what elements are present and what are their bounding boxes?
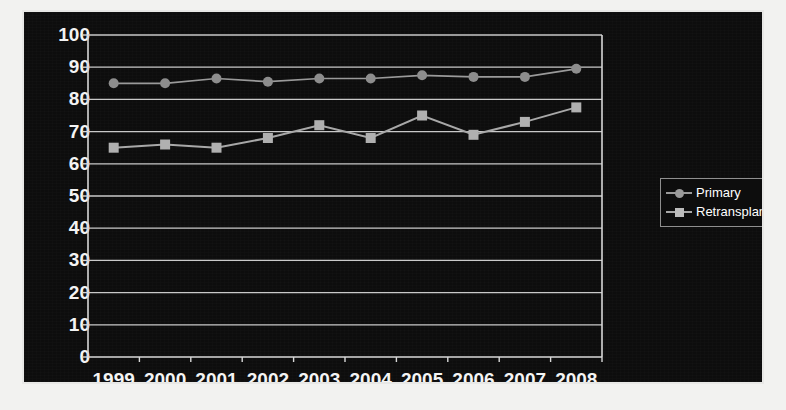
x-axis-tick-label: 2006	[452, 370, 494, 384]
x-axis-tick-label: 2002	[247, 370, 289, 384]
screenshot-root: 1009080706050403020100 19992000200120022…	[0, 0, 786, 410]
x-axis-tick-label: 2005	[401, 370, 443, 384]
x-axis-tick-labels: 1999200020012002200320042005200620072008	[24, 12, 762, 382]
chart-image: 1009080706050403020100 19992000200120022…	[22, 10, 764, 384]
legend-item-primary: Primary	[666, 183, 758, 202]
x-axis-tick-label: 2004	[350, 370, 392, 384]
legend-marker-circle-icon	[666, 187, 692, 199]
legend-label-retransplant: Retransplant	[696, 204, 764, 219]
x-axis-tick-label: 2000	[144, 370, 186, 384]
x-axis-tick-label: 2001	[195, 370, 237, 384]
legend-marker-square-icon	[666, 206, 692, 218]
x-axis-tick-label: 1999	[93, 370, 135, 384]
legend-item-retransplant: Retransplant	[666, 202, 758, 221]
legend-label-primary: Primary	[696, 185, 741, 200]
x-axis-tick-label: 2008	[555, 370, 597, 384]
chart-legend: Primary Retransplant	[660, 178, 764, 227]
x-axis-tick-label: 2007	[504, 370, 546, 384]
x-axis-tick-label: 2003	[298, 370, 340, 384]
